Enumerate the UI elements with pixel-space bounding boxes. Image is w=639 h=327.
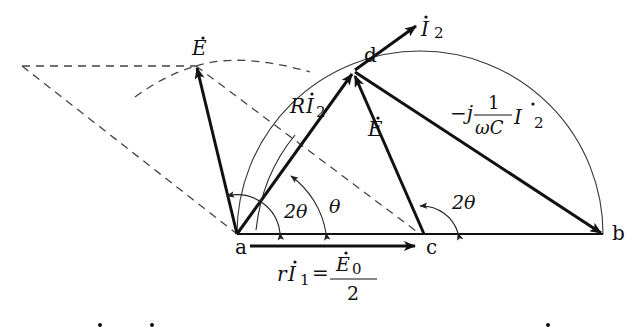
label-point-a: a bbox=[235, 235, 247, 259]
label-rI1-sub: 1 bbox=[300, 271, 310, 289]
label-cap-num: 1 bbox=[488, 92, 499, 113]
label-angle-theta: θ bbox=[329, 195, 341, 217]
dashed-arc-right bbox=[196, 60, 310, 72]
label-E0-den: 2 bbox=[347, 282, 359, 304]
label-R-I-sub: 2 bbox=[316, 103, 326, 121]
dot-E-center bbox=[376, 116, 379, 119]
label-point-c: c bbox=[426, 235, 437, 259]
label-cap-I: I bbox=[513, 105, 523, 129]
label-rI1-I: I bbox=[287, 262, 297, 286]
label-cap-sub: 2 bbox=[534, 114, 544, 132]
label-I2-sub: 2 bbox=[434, 24, 444, 42]
label-E0: E bbox=[335, 253, 350, 275]
dashed-left-line bbox=[22, 66, 237, 234]
label-rI1-eq: = bbox=[312, 261, 329, 285]
label-R-I: I bbox=[305, 94, 315, 118]
label-cap-den: ωC bbox=[475, 117, 504, 138]
label-point-b: b bbox=[612, 221, 625, 245]
label-rI1-r: r bbox=[277, 262, 288, 286]
cropped-dot-1 bbox=[98, 323, 102, 327]
phasor-diagram: E d I 2 R I 2 E −j 1 ωC I 2 2θ θ 2θ a c … bbox=[0, 0, 639, 327]
phasor-capacitor-voltage bbox=[355, 72, 601, 233]
cropped-dot-3 bbox=[546, 323, 550, 327]
label-I2: I bbox=[420, 17, 430, 41]
label-angle-2theta-c: 2θ bbox=[451, 191, 476, 213]
label-R: R bbox=[289, 94, 305, 118]
label-E-center: E bbox=[367, 117, 383, 141]
dot-E0 bbox=[344, 251, 347, 254]
dot-I2 bbox=[424, 15, 427, 18]
dot-RI2 bbox=[310, 92, 313, 95]
dashed-arc-left bbox=[135, 66, 196, 97]
cropped-dot-2 bbox=[150, 323, 154, 327]
label-E0-sub: 0 bbox=[352, 260, 362, 278]
phasor-E-from-c bbox=[355, 76, 424, 234]
dot-rI1 bbox=[293, 260, 296, 263]
dot-cap-I bbox=[531, 102, 534, 105]
label-minus-j: −j bbox=[450, 101, 473, 125]
label-E-top: E bbox=[191, 36, 207, 60]
dot-E-top bbox=[201, 36, 204, 39]
label-point-d: d bbox=[364, 43, 377, 67]
label-angle-2theta-a: 2θ bbox=[283, 200, 308, 222]
